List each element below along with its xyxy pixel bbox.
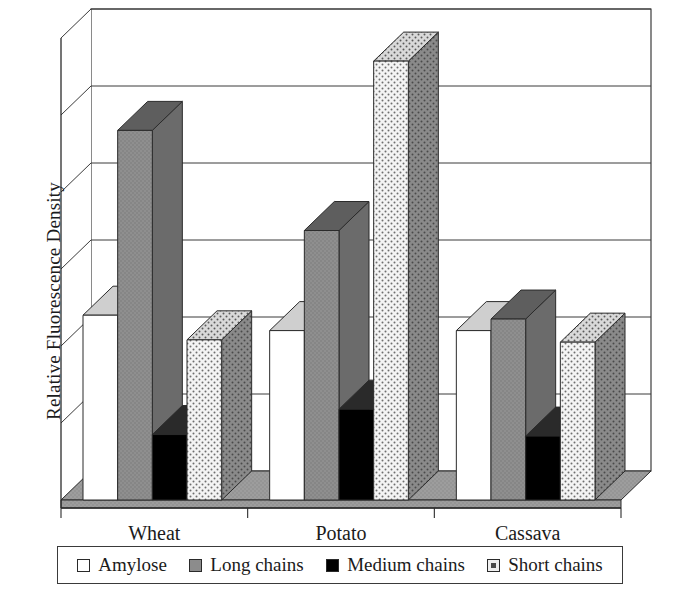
bar-front-face: [456, 331, 491, 500]
legend-label-long-chains: Long chains: [210, 554, 303, 576]
bar-side-face: [595, 313, 625, 500]
legend-item-amylose: Amylose: [77, 554, 167, 576]
bar-front-face: [304, 231, 339, 501]
chart-figure: Relative Fluorescence Density Wheat Pota…: [0, 0, 680, 611]
x-axis-label-cassava: Cassava: [438, 522, 618, 545]
legend-label-medium-chains: Medium chains: [347, 554, 465, 576]
legend-swatch-medium-chains: [326, 559, 339, 572]
bar-chart-canvas: [0, 0, 680, 611]
bar-front-face: [526, 436, 561, 500]
bar-cassava-short-chains: [560, 313, 625, 500]
legend-label-amylose: Amylose: [98, 554, 167, 576]
legend-swatch-long-chains: [189, 559, 202, 572]
legend-swatch-amylose: [77, 559, 90, 572]
floor-front-edge: [61, 500, 621, 508]
bar-front-face: [491, 319, 526, 500]
legend-item-long-chains: Long chains: [189, 554, 303, 576]
bar-front-face: [187, 340, 222, 500]
bar-front-face: [118, 130, 153, 500]
bar-front-face: [560, 342, 595, 500]
x-axis-label-potato: Potato: [251, 522, 431, 545]
bar-side-face: [222, 311, 252, 500]
bar-front-face: [339, 409, 374, 500]
bar-potato-short-chains: [374, 32, 439, 500]
chart-legend: Amylose Long chains Medium chains Short …: [57, 546, 623, 584]
legend-item-short-chains: Short chains: [487, 554, 602, 576]
bar-wheat-short-chains: [187, 311, 252, 500]
legend-item-medium-chains: Medium chains: [326, 554, 465, 576]
bar-front-face: [270, 331, 305, 500]
bar-side-face: [408, 32, 438, 500]
legend-swatch-short-chains: [487, 559, 500, 572]
bar-front-face: [152, 435, 187, 500]
bar-front-face: [83, 315, 118, 500]
legend-label-short-chains: Short chains: [508, 554, 602, 576]
bar-front-face: [374, 61, 409, 500]
x-axis-label-wheat: Wheat: [64, 522, 244, 545]
